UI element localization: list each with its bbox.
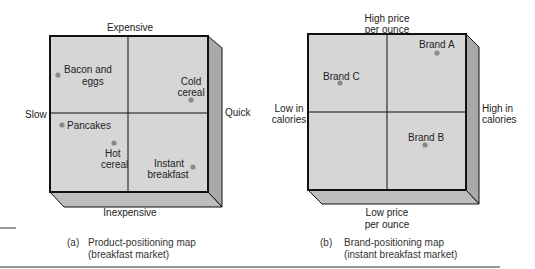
label-hot-cereal-2: cereal bbox=[101, 159, 128, 170]
map-a-right-axis-label: Quick bbox=[225, 107, 251, 118]
map-b-top-axis-label-2: per ounce bbox=[357, 24, 417, 35]
map-b-bottom-axis-label-1: Low price bbox=[357, 207, 417, 218]
map-b-caption-subtitle: (instant breakfast market) bbox=[344, 249, 457, 261]
map-a-left-axis-label: Slow bbox=[25, 109, 47, 120]
label-pancakes: Pancakes bbox=[67, 120, 111, 131]
point-instant-breakfast bbox=[190, 164, 195, 169]
map-b-box bbox=[308, 34, 479, 204]
map-a-right-side bbox=[208, 36, 222, 207]
label-hot-cereal-1: Hot bbox=[105, 148, 121, 159]
map-b-top-axis-label-1: High price bbox=[357, 13, 417, 24]
map-a-caption-subtitle: (breakfast market) bbox=[88, 249, 169, 261]
label-instant-breakfast-1: Instant bbox=[148, 158, 190, 169]
map-b-caption-title: Brand-positioning map bbox=[344, 237, 444, 249]
map-a-caption-letter: (a) bbox=[67, 237, 79, 249]
point-bacon-and-eggs bbox=[55, 72, 60, 77]
label-brand-c: Brand C bbox=[323, 71, 360, 82]
point-pancakes bbox=[59, 122, 64, 127]
map-b-right-axis-label-1: High in bbox=[482, 103, 513, 114]
label-brand-a: Brand A bbox=[419, 39, 455, 50]
map-a-bottom-side bbox=[50, 192, 222, 207]
map-b-bottom-side bbox=[308, 190, 479, 204]
label-bacon-and-eggs-1: Bacon and bbox=[64, 64, 112, 75]
point-hot-cereal bbox=[111, 140, 116, 145]
map-a-caption-title: Product-positioning map bbox=[88, 237, 196, 249]
map-b-right-side bbox=[466, 34, 479, 204]
point-cold-cereal bbox=[188, 97, 193, 102]
map-b-caption-letter: (b) bbox=[320, 237, 332, 249]
map-b-right-axis-label-2: calories bbox=[482, 114, 516, 125]
label-cold-cereal-2: cereal bbox=[176, 87, 206, 98]
map-a-top-axis-label: Expensive bbox=[100, 22, 160, 33]
map-a-bottom-axis-label: Inexpensive bbox=[95, 207, 165, 218]
point-brand-a bbox=[434, 50, 439, 55]
map-b-bottom-axis-label-2: per ounce bbox=[357, 219, 417, 230]
map-b-left-axis-label-1: Low in bbox=[270, 103, 308, 114]
map-b-left-axis-label-2: calories bbox=[270, 114, 308, 125]
label-cold-cereal-1: Cold bbox=[176, 76, 206, 87]
label-brand-b: Brand B bbox=[408, 132, 444, 143]
label-bacon-and-eggs-2: eggs bbox=[82, 76, 104, 87]
point-brand-b bbox=[422, 142, 427, 147]
label-instant-breakfast-2: breakfast bbox=[146, 169, 190, 180]
